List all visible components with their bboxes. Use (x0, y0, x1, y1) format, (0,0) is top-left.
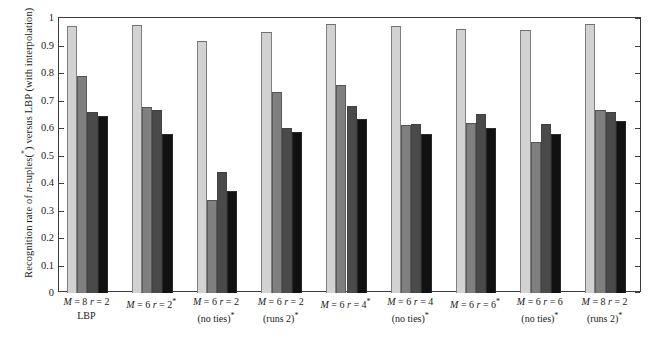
bar (401, 125, 411, 293)
x-group-label-line1: M = 8 r = 2 (582, 296, 628, 307)
y-axis-tick-mark-left (59, 211, 64, 212)
bar-group (67, 18, 108, 293)
bar (87, 112, 97, 294)
y-axis-tick-label: 0.5 (20, 149, 54, 160)
y-axis-tick-mark-right (635, 266, 640, 267)
bar-group (326, 18, 367, 293)
bar (541, 124, 551, 293)
bar (142, 107, 152, 293)
bar (326, 24, 336, 294)
bar (357, 119, 367, 293)
bar (272, 92, 282, 293)
bar (227, 191, 237, 293)
y-axis-tick-mark-right (635, 128, 640, 129)
bar (292, 132, 302, 293)
x-axis-group-labels: M = 8 r = 2LBPM = 6 r = 2*M = 6 r = 2(no… (58, 295, 641, 337)
bar (585, 24, 595, 294)
bar-group (585, 18, 626, 293)
bar (347, 106, 357, 293)
bar (67, 26, 77, 293)
y-axis-tick-label: 0.9 (20, 39, 54, 50)
y-axis-tick-mark-left (59, 73, 64, 74)
bar (98, 116, 108, 293)
bar (531, 142, 541, 293)
y-axis-tick-label: 0.6 (20, 122, 54, 133)
bar (261, 32, 271, 293)
y-axis-tick-label: 0.1 (20, 259, 54, 270)
bar (162, 134, 172, 293)
y-axis-tick-label: 0.8 (20, 67, 54, 78)
y-axis-tick-mark-right (635, 292, 640, 293)
bar (466, 123, 476, 293)
y-axis-tick-mark-right (635, 211, 640, 212)
y-axis-tick-mark-left (59, 183, 64, 184)
bar (486, 128, 496, 293)
bar (207, 200, 217, 294)
bar-chart: Recognition rate of n-tuples(*) versus L… (0, 0, 652, 338)
bar (476, 114, 486, 293)
bar (217, 172, 227, 293)
bar-group (132, 18, 173, 293)
bar (336, 85, 346, 293)
y-axis-tick-mark-left (59, 101, 64, 102)
bar-group (456, 18, 497, 293)
y-axis-tick-label: 0.3 (20, 204, 54, 215)
bar (456, 29, 466, 293)
bar (152, 110, 162, 293)
y-axis-tick-label: 0.7 (20, 94, 54, 105)
y-axis-tick-label: 1 (20, 12, 54, 23)
x-group-label-line2: (runs 2)* (555, 309, 652, 326)
y-axis-tick-mark-left (59, 266, 64, 267)
y-axis-tick-mark-right (635, 156, 640, 157)
plot-area (58, 17, 641, 292)
y-axis-tick-label: 0.4 (20, 177, 54, 188)
y-axis-tick-mark-left (59, 238, 64, 239)
y-axis-tick-label: 0.2 (20, 232, 54, 243)
bar-group (391, 18, 432, 293)
y-axis-tick-mark-left (59, 46, 64, 47)
bar (77, 76, 87, 293)
bar (411, 124, 421, 293)
bar-group (261, 18, 302, 293)
bars-layer (59, 18, 642, 293)
bar (520, 30, 530, 293)
bar (132, 25, 142, 293)
bar (595, 110, 605, 293)
bar (391, 26, 401, 293)
bar (197, 41, 207, 293)
y-axis-tick-mark-right (635, 18, 640, 19)
bar (551, 134, 561, 293)
y-axis-tick-labels: 00.10.20.30.40.50.60.70.80.91 (20, 0, 54, 338)
bar-group (197, 18, 238, 293)
y-axis-tick-mark-left (59, 156, 64, 157)
y-axis-tick-mark-right (635, 46, 640, 47)
x-axis-group-label: M = 8 r = 2(runs 2)* (555, 295, 652, 326)
bar (421, 134, 431, 293)
y-axis-tick-mark-left (59, 128, 64, 129)
y-axis-tick-mark-right (635, 73, 640, 74)
bar-group (520, 18, 561, 293)
y-axis-tick-mark-right (635, 238, 640, 239)
y-axis-tick-mark-right (635, 101, 640, 102)
y-axis-tick-mark-right (635, 183, 640, 184)
bar (606, 112, 616, 294)
bar (616, 121, 626, 293)
bar (282, 128, 292, 293)
